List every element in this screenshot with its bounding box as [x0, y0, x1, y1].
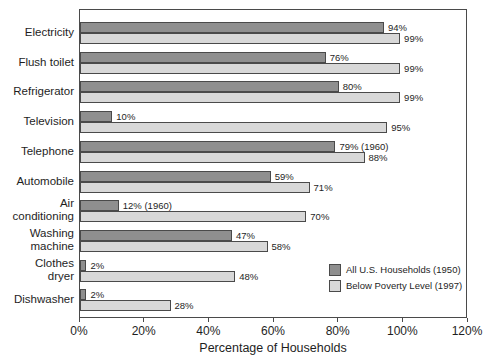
bar-below-poverty-1997 [80, 152, 365, 163]
value-label: 94% [388, 22, 407, 33]
x-tick [208, 318, 209, 322]
category-label: Telephone [0, 144, 74, 157]
category-label: Washing machine [0, 227, 74, 253]
legend-label-1950: All U.S. Households (1950) [346, 264, 461, 275]
category-label: Automobile [0, 174, 74, 187]
value-label: 48% [239, 271, 258, 282]
x-tick [273, 318, 274, 322]
category-label: Clothes dryer [0, 257, 74, 283]
legend-swatch-1950 [329, 264, 341, 276]
category-axis: ElectricityFlush toiletRefrigeratorTelev… [0, 9, 74, 318]
value-label: 59% [275, 171, 294, 182]
value-label: 12% (1960) [123, 200, 172, 211]
value-label: 80% [343, 81, 362, 92]
bar-below-poverty-1997 [80, 241, 268, 252]
bar-below-poverty-1997 [80, 182, 310, 193]
bar-all-households-1950 [80, 289, 86, 300]
value-label: 76% [330, 52, 349, 63]
value-label: 99% [404, 33, 423, 44]
category-label: Television [0, 115, 74, 128]
bar-below-poverty-1997 [80, 63, 400, 74]
bar-below-poverty-1997 [80, 211, 306, 222]
bar-all-households-1950 [80, 141, 335, 152]
x-axis-title: Percentage of Households [79, 341, 467, 355]
category-label: Dishwasher [0, 293, 74, 306]
legend: All U.S. Households (1950) Below Poverty… [329, 264, 462, 296]
bar-all-households-1950 [80, 260, 86, 271]
bar-below-poverty-1997 [80, 33, 400, 44]
value-label: 2% [90, 289, 104, 300]
bar-all-households-1950 [80, 171, 271, 182]
value-label: 95% [391, 122, 410, 133]
x-tick-label: 120% [442, 324, 492, 338]
bar-below-poverty-1997 [80, 300, 171, 311]
bar-all-households-1950 [80, 22, 384, 33]
value-label: 47% [236, 230, 255, 241]
bar-all-households-1950 [80, 52, 326, 63]
x-tick-label: 40% [183, 324, 233, 338]
bar-all-households-1950 [80, 81, 339, 92]
value-label: 10% [116, 111, 135, 122]
bar-below-poverty-1997 [80, 92, 400, 103]
legend-label-1997: Below Poverty Level (1997) [346, 280, 462, 291]
bar-below-poverty-1997 [80, 271, 235, 282]
bar-all-households-1950 [80, 111, 112, 122]
x-tick [79, 318, 80, 322]
household-appliances-bar-chart: ElectricityFlush toiletRefrigeratorTelev… [0, 0, 493, 364]
legend-item-1997: Below Poverty Level (1997) [329, 280, 462, 291]
value-label: 88% [369, 152, 388, 163]
value-label: 2% [90, 260, 104, 271]
value-label: 70% [310, 211, 329, 222]
x-tick-label: 20% [119, 324, 169, 338]
category-label: Flush toilet [0, 55, 74, 68]
value-label: 71% [314, 182, 333, 193]
value-label: 28% [175, 300, 194, 311]
category-label: Electricity [0, 26, 74, 39]
x-tick-label: 80% [313, 324, 363, 338]
x-tick-label: 100% [377, 324, 427, 338]
value-label: 58% [272, 241, 291, 252]
x-tick [143, 318, 144, 322]
x-tick [467, 318, 468, 322]
x-tick-label: 0% [54, 324, 104, 338]
value-label: 99% [404, 63, 423, 74]
legend-item-1950: All U.S. Households (1950) [329, 264, 462, 275]
category-label: Refrigerator [0, 85, 74, 98]
bar-below-poverty-1997 [80, 122, 387, 133]
bar-all-households-1950 [80, 230, 232, 241]
value-label: 99% [404, 92, 423, 103]
x-tick-label: 60% [248, 324, 298, 338]
x-tick [337, 318, 338, 322]
value-label: 79% (1960) [339, 141, 388, 152]
plot-area: All U.S. Households (1950) Below Poverty… [79, 9, 467, 318]
legend-swatch-1997 [329, 280, 341, 292]
category-label: Air conditioning [0, 197, 74, 223]
x-tick [402, 318, 403, 322]
bar-all-households-1950 [80, 200, 119, 211]
